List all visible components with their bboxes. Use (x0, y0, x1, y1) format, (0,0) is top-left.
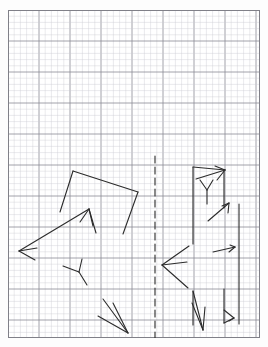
diag-arrow-mid-right (208, 203, 229, 221)
diag-arrow-mid-right-shaft (208, 203, 229, 221)
right-polygon-with-arrows (162, 166, 239, 330)
down-right-arrow-bundle-head-left (103, 299, 128, 333)
left-arrow-long (19, 209, 89, 260)
short-arrow-right-mid (213, 245, 235, 252)
down-right-arrow-bundle (98, 299, 128, 333)
bottom-right-arrow-head-right (229, 318, 234, 321)
bottom-right-arrow-head-left (224, 310, 234, 318)
right-y-mark-arm-0 (200, 180, 207, 190)
up-arrow-short-head-right (89, 209, 93, 226)
graph-paper-sheet (8, 10, 260, 338)
drawing-canvas (8, 10, 260, 338)
right-y-mark-arm-1 (207, 180, 213, 190)
poly-edge-top (73, 171, 138, 192)
left-y-mark-arm-1 (79, 259, 82, 272)
short-arrow-right-mid-head-left (230, 245, 235, 247)
left-arrow-long-shaft (19, 209, 89, 251)
left-y-mark-arm-2 (79, 272, 87, 285)
bottom-right-arrow (224, 310, 234, 323)
poly-edge-right (123, 192, 138, 234)
diag-arrow-mid-right-head-right (228, 203, 229, 213)
down-left-arrow-bottom-head-right (203, 307, 205, 330)
up-arrow-short-head-left (80, 209, 89, 222)
poly-edge-left (60, 171, 73, 212)
screenshot-root (0, 0, 268, 347)
drawing-ink (19, 156, 239, 338)
left-y-mark (63, 259, 87, 285)
left-y-mark-arm-0 (63, 266, 79, 272)
